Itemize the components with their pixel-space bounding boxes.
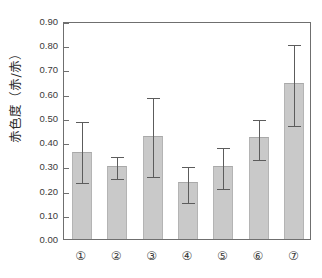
error-bar-line bbox=[153, 98, 154, 177]
error-bar-cap-upper bbox=[76, 122, 89, 123]
error-bar-line bbox=[223, 148, 224, 189]
x-axis-tick-label: ⑤ bbox=[205, 248, 239, 264]
y-axis-tick-label: 0.20 bbox=[22, 187, 58, 197]
y-axis-tick-label: 0.90 bbox=[22, 17, 58, 27]
y-axis-tick-label: 0.50 bbox=[22, 114, 58, 124]
error-bar-cap-lower bbox=[217, 189, 230, 190]
error-bar-line bbox=[294, 45, 295, 126]
y-axis-tick-mark bbox=[64, 47, 69, 48]
y-axis-tick-label: 0.80 bbox=[22, 41, 58, 51]
error-bar-line bbox=[188, 167, 189, 203]
error-bar-line bbox=[259, 120, 260, 160]
error-bar-cap-upper bbox=[288, 45, 301, 46]
y-axis-tick-mark bbox=[64, 96, 69, 97]
error-bar-line bbox=[117, 157, 118, 179]
error-bar-cap-upper bbox=[253, 120, 266, 121]
x-axis-tick-label: ③ bbox=[135, 248, 169, 264]
y-axis-tick-mark bbox=[64, 144, 69, 145]
error-bar-cap-upper bbox=[182, 167, 195, 168]
y-axis-tick-label: 0.10 bbox=[22, 211, 58, 221]
y-axis-tick-mark bbox=[64, 217, 69, 218]
error-bar-cap-lower bbox=[76, 183, 89, 184]
y-axis-tick-mark bbox=[64, 168, 69, 169]
error-bar-cap-lower bbox=[111, 179, 124, 180]
error-bar-cap-upper bbox=[111, 157, 124, 158]
x-axis-tick-label: ⑥ bbox=[241, 248, 275, 264]
x-axis-tick-label: ⑦ bbox=[276, 248, 310, 264]
y-axis-tick-label: 0.00 bbox=[22, 235, 58, 245]
plot-area bbox=[63, 22, 311, 240]
y-axis-tick-label: 0.70 bbox=[22, 65, 58, 75]
y-axis-tick-mark bbox=[64, 23, 69, 24]
error-bar-cap-lower bbox=[288, 126, 301, 127]
y-axis-tick-mark bbox=[64, 71, 69, 72]
x-axis-tick-label: ① bbox=[64, 248, 98, 264]
error-bar-cap-lower bbox=[182, 203, 195, 204]
y-axis-tick-mark bbox=[64, 120, 69, 121]
x-axis-tick-label: ④ bbox=[170, 248, 204, 264]
error-bar-cap-upper bbox=[147, 98, 160, 99]
y-axis-tick-mark bbox=[64, 193, 69, 194]
y-axis-tick-label: 0.60 bbox=[22, 90, 58, 100]
x-axis-tick-labels: ①②③④⑤⑥⑦ bbox=[63, 248, 311, 272]
y-axis-tick-label: 0.30 bbox=[22, 162, 58, 172]
y-axis-tick-labels: 0.000.100.200.300.400.500.600.700.800.90 bbox=[22, 0, 58, 278]
error-bar-cap-upper bbox=[217, 148, 230, 149]
y-axis-tick-label: 0.40 bbox=[22, 138, 58, 148]
error-bar-cap-lower bbox=[147, 177, 160, 178]
x-axis-tick-label: ② bbox=[99, 248, 133, 264]
error-bar-line bbox=[82, 122, 83, 183]
chart-container: 赤色度（赤/赤） 0.000.100.200.300.400.500.600.7… bbox=[0, 0, 322, 278]
error-bar-cap-lower bbox=[253, 160, 266, 161]
